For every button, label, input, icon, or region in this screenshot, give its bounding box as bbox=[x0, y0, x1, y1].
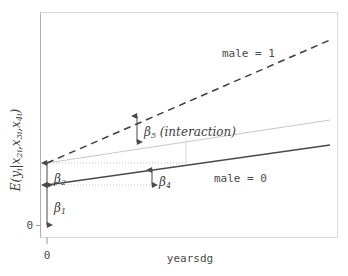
label-male-0: male = 0 bbox=[214, 172, 267, 185]
label-beta4: β4 bbox=[158, 175, 171, 190]
y-axis-title: E(yi|x2i,x3i,x4i) bbox=[9, 108, 24, 192]
x-axis-title: yearsdg bbox=[167, 252, 213, 265]
y-tick-label-0: 0 bbox=[26, 219, 33, 232]
label-beta1: β1 bbox=[53, 201, 66, 216]
line-male-0 bbox=[47, 145, 330, 185]
label-beta5: β5 (interaction) bbox=[143, 125, 236, 140]
label-beta2: β2 bbox=[53, 172, 66, 187]
regression-interaction-figure: 0 0 yearsdg E(yi|x2i,x3i,x4i) bbox=[0, 0, 348, 276]
label-male-1: male = 1 bbox=[222, 47, 275, 60]
svg-text:E(yi|x2i,x3i,x4i): E(yi|x2i,x3i,x4i) bbox=[9, 108, 24, 192]
line-male-1 bbox=[47, 40, 330, 163]
plot-canvas: 0 0 yearsdg E(yi|x2i,x3i,x4i) bbox=[0, 0, 348, 276]
x-tick-label-0: 0 bbox=[44, 249, 51, 262]
